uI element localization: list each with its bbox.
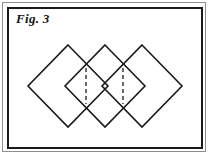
diamond-diagram [0, 0, 210, 156]
shape-layer [28, 45, 182, 127]
figure-root: Fig. 3 [0, 0, 210, 156]
dash-layer [86, 68, 123, 104]
diamond-right [102, 45, 182, 127]
diamond-left [28, 45, 108, 127]
diamond-middle [65, 45, 145, 127]
